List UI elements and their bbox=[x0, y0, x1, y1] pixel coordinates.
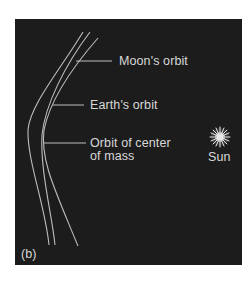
center-of-mass-label-line2: of mass bbox=[90, 150, 171, 163]
moon-orbit-curve bbox=[28, 32, 83, 245]
panel-label: (b) bbox=[21, 248, 37, 261]
center-of-mass-orbit-label: Orbit of center of mass bbox=[90, 137, 171, 163]
earth-orbit-label: Earth's orbit bbox=[90, 99, 158, 112]
moon-orbit-label: Moon's orbit bbox=[119, 55, 188, 68]
starburst-icon bbox=[210, 127, 230, 147]
sun-label: Sun bbox=[208, 151, 231, 164]
earth-orbit-curve bbox=[42, 32, 90, 245]
